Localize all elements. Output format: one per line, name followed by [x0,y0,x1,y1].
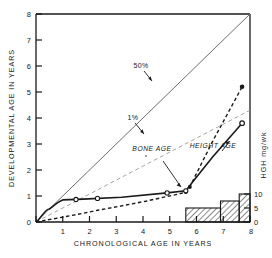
bone-age-point [240,85,245,90]
y-tick-label-4: 4 [27,114,31,123]
y-tick-label-5: 5 [27,88,31,97]
y-tick-label-8: 8 [27,10,31,19]
y-tick-label-2: 2 [27,166,31,175]
y2-axis-title: HGH mg/wk [259,132,268,179]
x-tick-label-5: 5 [168,227,172,236]
hgh-bar-3 [239,194,250,222]
height-age-point [184,189,188,193]
annotation-bone-age-label-line1: BONE AGE [132,145,171,152]
y-tick-label-1: 1 [27,192,31,201]
y-tick-label-0: 0 [27,218,31,227]
y-tick-label-7: 7 [27,36,31,45]
x-tick-label-7: 7 [221,227,225,236]
y-tick-label-3: 3 [27,140,31,149]
x-tick-label-1: 1 [61,227,65,236]
annotation-50pct-label: 50% [133,62,148,69]
y2-tick-label-5: 5 [254,204,258,213]
height-age-point [240,121,245,126]
annotation-1pct-label: 1% [128,114,139,121]
y-axis-title: DEVELOPMENTAL AGE IN YEARS [7,49,16,187]
height-age-point [74,197,78,201]
x-tick-label-2: 2 [87,227,91,236]
x-tick-label-6: 6 [194,227,198,236]
y2-tick-label-0: 0 [254,218,258,227]
x-tick-label-4: 4 [141,227,145,236]
y-tick-label-6: 6 [27,62,31,71]
height-age-point [165,191,169,195]
annotation-height-age-label: HEIGHT AGE [190,142,237,149]
hgh-bar-1 [186,208,221,222]
y2-tick-label-10: 10 [254,190,262,199]
y-axis-tick-labels: 0 1 2 3 4 5 6 7 8 [27,10,31,227]
height-age-point [95,196,99,200]
x-axis-title: CHRONOLOGICAL AGE IN YEARS [74,239,212,248]
hgh-bar-2 [221,201,240,222]
x-tick-label-3: 3 [114,227,118,236]
x-tick-label-8: 8 [249,227,253,236]
growth-chart-figure: 0 1 2 3 4 5 6 7 8 1 2 3 4 5 6 7 8 0 [0,0,272,258]
